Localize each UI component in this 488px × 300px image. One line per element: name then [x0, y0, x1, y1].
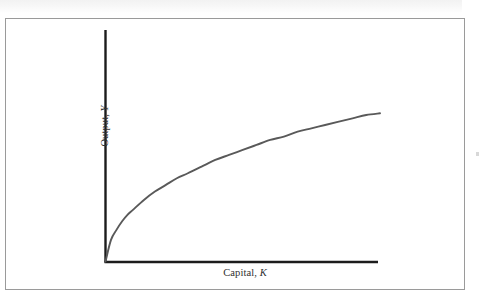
x-axis-label: Capital, K	[160, 267, 330, 278]
x-axis-label-prefix: Capital,	[223, 267, 259, 278]
production-function-chart	[0, 0, 488, 300]
x-axis-label-variable: K	[260, 267, 267, 278]
y-axis-label: Output, Y	[97, 91, 113, 161]
y-axis-label-prefix: Output,	[99, 111, 110, 146]
y-axis-label-variable: Y	[99, 105, 110, 111]
production-function-curve	[106, 113, 381, 261]
